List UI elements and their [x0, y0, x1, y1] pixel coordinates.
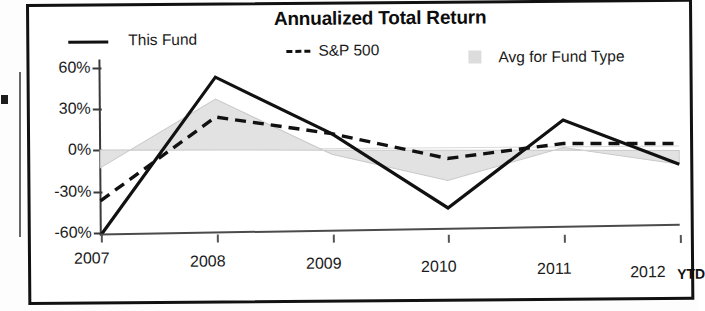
x-tick-2008: [217, 235, 219, 243]
page-margin-mark: [1, 95, 8, 104]
x-axis-label-2007: 2007: [74, 249, 110, 267]
x-axis-label-2011: 2011: [537, 260, 572, 278]
x-tick-2009: [333, 235, 335, 243]
chart-area: Annualized Total Return This Fund S&P 50…: [30, 1, 687, 302]
x-axis-ytd-note: YTD: [677, 266, 705, 282]
x-tick-2007: [101, 234, 103, 242]
x-axis-label-2012: 2012: [630, 263, 666, 281]
x-axis-label-2009: 2009: [306, 255, 342, 273]
x-tick-2011: [564, 235, 566, 243]
page-margin-rule: [19, 72, 21, 237]
x-axis-label-2008: 2008: [190, 252, 226, 270]
series-plot: [30, 1, 687, 302]
x-tick-2012: [680, 235, 682, 243]
x-axis-label-2010: 2010: [421, 258, 457, 276]
x-tick-2010: [448, 235, 450, 243]
